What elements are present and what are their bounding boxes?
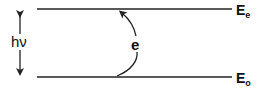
excited-level-label: Ee [236, 3, 250, 20]
transition-label: e [131, 37, 139, 52]
photon-energy-label: hν [11, 34, 27, 49]
ground-level-label: Eo [236, 71, 251, 88]
